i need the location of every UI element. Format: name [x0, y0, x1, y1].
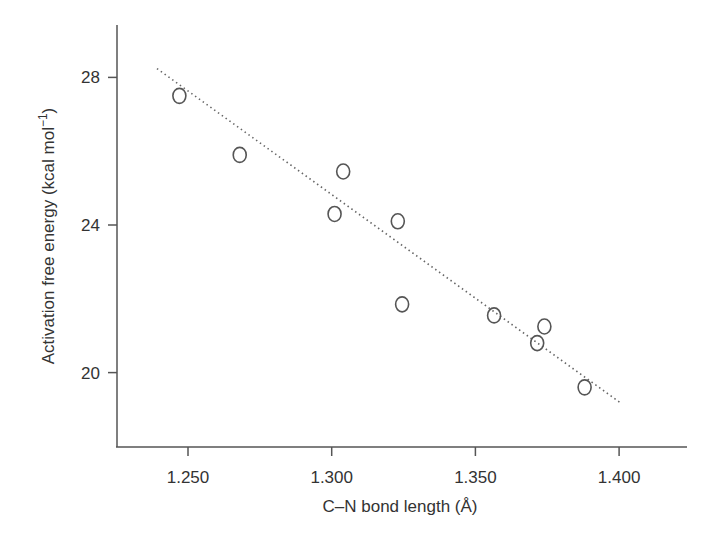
x-tick-label: 1.400 [598, 468, 641, 487]
x-tick-label: 1.350 [454, 468, 497, 487]
data-point [396, 297, 409, 312]
trendline [157, 69, 620, 403]
y-tick-label: 28 [81, 68, 100, 87]
data-point [578, 380, 591, 395]
axes [116, 25, 687, 447]
data-point [488, 308, 501, 323]
data-point [538, 319, 551, 334]
x-tick-label: 1.300 [310, 468, 353, 487]
x-axis-title: C–N bond length (Å) [323, 497, 478, 516]
y-tick-label: 20 [81, 364, 100, 383]
y-axis-title-main: Activation free energy (kcal mol [39, 127, 58, 364]
data-point [233, 147, 246, 162]
plot-area [157, 69, 620, 403]
y-axis-title: Activation free energy (kcal mol−1) [36, 108, 58, 365]
data-point [337, 164, 350, 179]
y-axis-ticks: 202428 [81, 68, 117, 382]
data-point [328, 206, 341, 221]
x-axis-ticks: 1.2501.3001.3501.400 [167, 447, 641, 487]
data-point [173, 88, 186, 103]
data-point [391, 214, 404, 229]
x-tick-label: 1.250 [167, 468, 210, 487]
data-point [531, 336, 544, 351]
y-tick-label: 24 [81, 216, 100, 235]
scatter-chart: 1.2501.3001.3501.400 202428 C–N bond len… [0, 0, 718, 546]
y-axis-title-sup: −1 [36, 113, 50, 127]
